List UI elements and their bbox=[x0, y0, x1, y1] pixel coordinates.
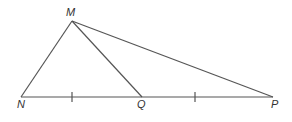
label-n: N bbox=[17, 98, 25, 110]
label-q: Q bbox=[137, 98, 146, 110]
segment-mn bbox=[21, 21, 72, 97]
label-m: M bbox=[66, 6, 76, 18]
triangle-diagram: M N Q P bbox=[0, 0, 292, 122]
label-p: P bbox=[271, 98, 279, 110]
segment-mp bbox=[72, 21, 273, 97]
segment-mq bbox=[72, 21, 142, 97]
